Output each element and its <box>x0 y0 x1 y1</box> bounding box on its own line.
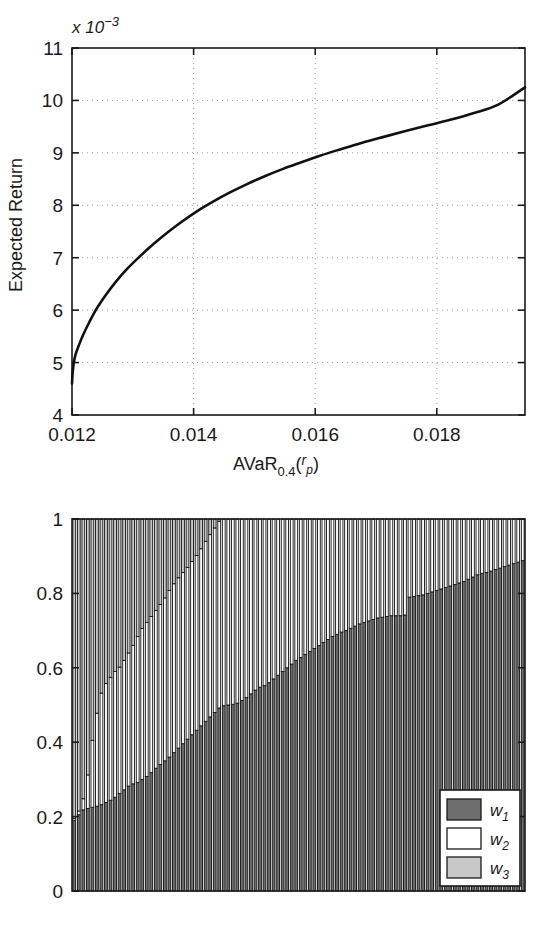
weight-segment-w1 <box>73 820 76 891</box>
top-y-tick: 6 <box>52 300 63 321</box>
weight-segment-w2 <box>259 519 262 687</box>
weight-segment-w2 <box>254 519 257 690</box>
y-axis-exponent: x 10−3 <box>71 14 120 37</box>
weight-segment-w2 <box>376 519 379 618</box>
weight-segment-w3 <box>77 519 80 811</box>
weight-segment-w2 <box>458 519 461 583</box>
weight-segment-w3 <box>150 519 153 616</box>
weight-segment-w2 <box>222 519 225 706</box>
weight-segment-w2 <box>308 519 311 651</box>
weight-segment-w2 <box>263 519 266 686</box>
top-y-tick: 4 <box>52 405 63 426</box>
top-x-tick: 0.014 <box>170 424 218 445</box>
weight-segment-w2 <box>485 519 488 573</box>
weight-segment-w2 <box>150 616 153 772</box>
weight-segment-w1 <box>327 640 330 891</box>
frontier-curve <box>72 87 525 383</box>
weight-segment-w3 <box>136 519 139 637</box>
weight-segment-w2 <box>358 519 361 624</box>
weight-segment-w2 <box>444 519 447 587</box>
top-x-tick: 0.018 <box>413 424 461 445</box>
efficient-frontier-chart: x 10−3 Expected Return 4567891011 0.0120… <box>0 0 551 500</box>
weight-segment-w1 <box>431 592 434 891</box>
bottom-y-tick: 0.8 <box>37 583 63 604</box>
weight-segment-w1 <box>390 616 393 891</box>
weight-segment-w1 <box>367 621 370 891</box>
weight-segment-w1 <box>136 782 139 891</box>
weight-segment-w3 <box>118 519 121 667</box>
weight-segment-w2 <box>476 519 479 575</box>
weight-segment-w1 <box>349 628 352 891</box>
bottom-y-tick: 0.6 <box>37 658 63 679</box>
weight-segment-w2 <box>354 519 357 626</box>
weights-legend[interactable]: w1w2w3 <box>440 790 520 886</box>
weight-segment-w2 <box>345 519 348 631</box>
weight-segment-w1 <box>177 748 180 891</box>
top-y-tick: 8 <box>52 195 63 216</box>
weight-segment-w2 <box>136 637 139 783</box>
weight-segment-w1 <box>195 730 198 891</box>
weight-segment-w1 <box>186 739 189 891</box>
weight-segment-w2 <box>200 549 203 726</box>
weight-segment-w2 <box>105 683 108 802</box>
weight-segment-w3 <box>195 519 198 555</box>
weight-segment-w2 <box>118 667 121 793</box>
weight-segment-w1 <box>118 794 121 891</box>
weight-segment-w3 <box>91 519 94 740</box>
weight-segment-w2 <box>327 519 330 640</box>
weight-segment-w2 <box>250 519 253 694</box>
weight-segment-w3 <box>154 519 157 611</box>
weight-segment-w2 <box>182 573 185 744</box>
weight-segment-w2 <box>435 519 438 590</box>
weight-segment-w2 <box>109 677 112 800</box>
weight-segment-w3 <box>114 519 117 672</box>
legend-swatch-w1 <box>447 799 481 820</box>
weight-segment-w1 <box>100 805 103 891</box>
weight-segment-w3 <box>82 519 85 799</box>
legend-swatch-w3 <box>447 857 481 878</box>
weight-segment-w2 <box>236 519 239 703</box>
weight-segment-w2 <box>204 541 207 721</box>
weight-segment-w1 <box>376 618 379 891</box>
weight-segment-w3 <box>73 519 76 818</box>
weight-segment-w2 <box>295 519 298 660</box>
weight-segment-w1 <box>340 632 343 891</box>
weight-segment-w1 <box>173 753 176 891</box>
weight-segment-w2 <box>467 519 470 579</box>
weight-segment-w1 <box>259 687 262 891</box>
top-y-tick: 7 <box>52 248 63 269</box>
weight-segment-w3 <box>86 519 89 775</box>
weight-segment-w2 <box>299 519 302 657</box>
bottom-y-tick: 0 <box>52 881 63 902</box>
weight-segment-w2 <box>331 519 334 637</box>
top-plot-frame <box>72 48 525 415</box>
weight-segment-w1 <box>331 637 334 891</box>
weight-segment-w1 <box>263 686 266 891</box>
weight-segment-w2 <box>499 519 502 568</box>
weight-segment-w1 <box>227 705 230 891</box>
weight-segment-w1 <box>82 810 85 891</box>
weight-segment-w2 <box>340 519 343 632</box>
weight-segment-w2 <box>372 519 375 619</box>
weight-segment-w1 <box>191 735 194 891</box>
bottom-y-tick: 0.2 <box>37 807 63 828</box>
weight-segment-w3 <box>159 519 162 605</box>
weight-segment-w1 <box>114 797 117 891</box>
weight-segment-w1 <box>408 597 411 891</box>
weight-segment-w2 <box>240 519 243 701</box>
weight-segment-w3 <box>123 519 126 660</box>
weight-segment-w2 <box>195 555 198 730</box>
weight-segment-w1 <box>154 768 157 891</box>
weight-segment-w1 <box>426 593 429 891</box>
weight-segment-w1 <box>218 708 221 891</box>
weight-segment-w1 <box>413 596 416 891</box>
weight-segment-w2 <box>394 519 397 616</box>
weight-segment-w2 <box>317 519 320 645</box>
weight-segment-w3 <box>177 519 180 578</box>
weight-segment-w2 <box>209 535 212 717</box>
weight-segment-w1 <box>399 616 402 891</box>
weight-segment-w1 <box>290 664 293 891</box>
weight-segment-w1 <box>299 657 302 891</box>
weight-segment-w1 <box>281 672 284 891</box>
weight-segment-w2 <box>381 519 384 617</box>
